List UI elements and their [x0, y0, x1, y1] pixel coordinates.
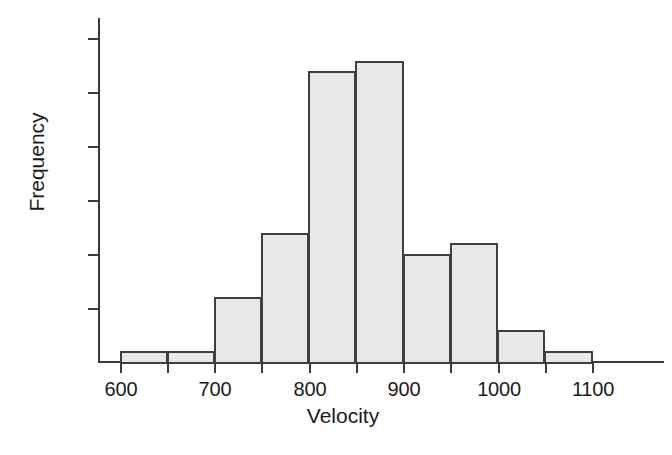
x-tick-650: [167, 362, 169, 373]
x-tick-label-1100: 1100: [553, 378, 633, 400]
x-tick-600: [120, 362, 122, 373]
x-tick-label-800: 800: [270, 378, 350, 400]
bar-600-650: [120, 351, 168, 364]
bar-750-800: [261, 233, 309, 364]
bar-950-1000: [450, 243, 498, 364]
bar-800-850: [308, 71, 356, 364]
x-axis-title-text: Velocity: [307, 404, 379, 428]
y-tick-5: [88, 308, 99, 310]
x-tick-800: [309, 362, 311, 373]
bar-900-950: [403, 254, 451, 364]
x-tick-label-900: 900: [364, 378, 444, 400]
y-tick-15: [88, 200, 99, 202]
y-tick-25: [88, 92, 99, 94]
x-tick-label-1000: 1000: [459, 378, 539, 400]
x-axis-title: Velocity: [0, 404, 672, 428]
x-tick-750: [261, 362, 263, 373]
y-tick-30: [88, 38, 99, 40]
bar-700-750: [214, 297, 262, 364]
y-axis-title: Frequency: [25, 42, 49, 282]
x-tick-label-700: 700: [175, 378, 255, 400]
x-tick-label-600: 600: [81, 378, 161, 400]
y-tick-10: [88, 254, 99, 256]
x-tick-1100: [592, 362, 594, 373]
x-tick-850: [356, 362, 358, 373]
histogram-figure: 30 25 20 15 10 5 600 700 800 900 1000 11…: [0, 0, 672, 455]
x-tick-900: [403, 362, 405, 373]
x-tick-1050: [545, 362, 547, 373]
x-tick-1000: [498, 362, 500, 373]
x-tick-950: [450, 362, 452, 373]
bar-650-700: [167, 351, 215, 364]
y-tick-20: [88, 146, 99, 148]
bar-850-900: [355, 61, 404, 364]
bar-1000-1050: [497, 330, 545, 364]
y-axis-line: [98, 18, 100, 363]
bar-1050-1100: [544, 351, 593, 364]
x-tick-700: [214, 362, 216, 373]
